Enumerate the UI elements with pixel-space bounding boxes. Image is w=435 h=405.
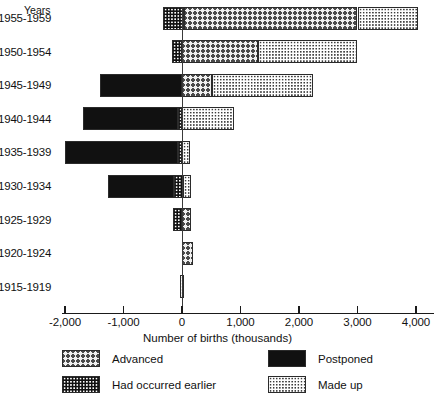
plot-area: Years 1955-19591950-19541945-19491940-19… <box>0 0 435 340</box>
y-tick-label: 1930-1934 <box>0 180 82 192</box>
bar-segment <box>182 74 212 97</box>
legend-label: Had occurred earlier <box>112 379 216 391</box>
y-tick-label: 1955-1959 <box>0 12 82 24</box>
x-tick-mark <box>64 306 65 314</box>
bar-segment <box>183 175 191 198</box>
bar-segment <box>258 40 357 63</box>
legend-label: Postponed <box>318 353 373 365</box>
x-tick-mark <box>123 306 124 314</box>
x-tick-label: -1,000 <box>107 316 139 328</box>
x-tick-mark <box>357 306 358 314</box>
legend-item: Made up <box>268 376 363 393</box>
y-tick-label: 1915-1919 <box>0 281 82 293</box>
y-tick-label: 1950-1954 <box>0 46 82 58</box>
legend-swatch <box>62 350 100 367</box>
legend-item: Postponed <box>268 350 373 367</box>
births-timing-chart: Years 1955-19591950-19541945-19491940-19… <box>0 0 435 405</box>
bar-segment <box>184 7 357 30</box>
bar-segment <box>172 40 182 63</box>
legend-item: Advanced <box>62 350 163 367</box>
bar-segment <box>173 208 182 231</box>
bar-segment <box>182 107 234 130</box>
bar-segment <box>182 208 191 231</box>
legend-swatch <box>268 350 306 367</box>
zero-reference-line <box>182 8 183 313</box>
x-tick-label: -2,000 <box>49 316 81 328</box>
bar-segment <box>163 7 184 30</box>
x-tick-label: 3,000 <box>343 316 371 328</box>
x-tick-label: 1,000 <box>226 316 254 328</box>
bar-segment <box>65 141 178 164</box>
legend-swatch <box>62 376 100 393</box>
x-tick-mark <box>181 306 182 314</box>
y-tick-label: 1920-1924 <box>0 247 82 259</box>
bar-segment <box>108 175 175 198</box>
bar-segment <box>182 141 190 164</box>
y-tick-label: 1945-1949 <box>0 79 82 91</box>
bar-segment <box>182 242 193 265</box>
bar-segment <box>100 74 182 97</box>
x-tick-mark <box>240 306 241 314</box>
chart-legend: AdvancedPostponedHad occurred earlierMad… <box>0 348 435 405</box>
legend-swatch <box>268 376 306 393</box>
x-tick-label: 4,000 <box>402 316 430 328</box>
x-tick-mark <box>298 306 299 314</box>
x-tick-label: 2,000 <box>285 316 313 328</box>
bar-segment <box>212 74 313 97</box>
x-axis-title: Number of births (thousands) <box>0 332 435 344</box>
x-tick-label: 0 <box>179 316 185 328</box>
y-tick-label: 1925-1929 <box>0 214 82 226</box>
legend-item: Had occurred earlier <box>62 376 216 393</box>
y-tick-label: 1940-1944 <box>0 113 82 125</box>
bar-segment <box>182 40 258 63</box>
legend-label: Advanced <box>112 353 163 365</box>
legend-label: Made up <box>318 379 363 391</box>
bar-segment <box>83 107 179 130</box>
x-axis-line <box>62 313 434 314</box>
bar-segment <box>358 7 419 30</box>
x-tick-mark <box>415 306 416 314</box>
